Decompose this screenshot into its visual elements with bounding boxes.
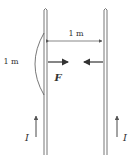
separation-dimension: 1 m <box>49 29 102 41</box>
current-left-label: I <box>24 132 30 143</box>
segment-length-label: 1 m <box>3 57 19 66</box>
current-right: I <box>117 116 128 143</box>
current-left: I <box>24 116 36 143</box>
current-right-label: I <box>122 132 128 143</box>
left-wire <box>44 9 47 156</box>
force-label: F <box>53 72 62 83</box>
separation-label: 1 m <box>68 29 84 38</box>
right-wire <box>104 9 107 156</box>
segment-length-arc: 1 m <box>3 33 44 95</box>
parallel-wires-diagram: 1 m 1 m F I I <box>0 0 135 165</box>
force-arrows: F <box>48 62 103 83</box>
